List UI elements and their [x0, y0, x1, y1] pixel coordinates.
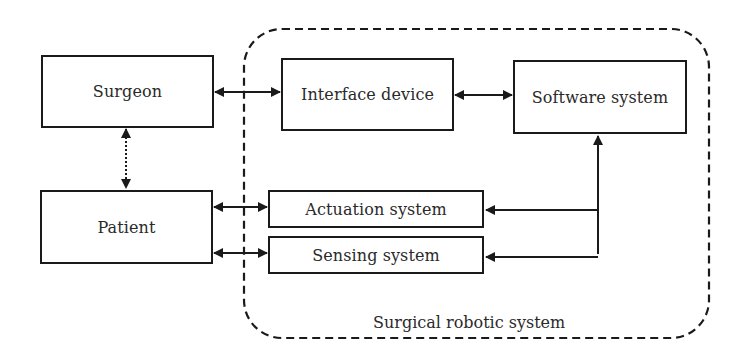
node-patient: Patient: [40, 190, 213, 264]
node-sensing-system: Sensing system: [268, 236, 484, 274]
node-sensing-system-label: Sensing system: [312, 246, 440, 265]
node-actuation-system: Actuation system: [268, 190, 484, 228]
node-patient-label: Patient: [97, 218, 155, 237]
node-software-system: Software system: [513, 60, 687, 134]
group-label: Surgical robotic system: [373, 313, 565, 332]
surgical-robot-diagram: Surgeon Interface device Software system…: [0, 0, 751, 357]
node-interface-device: Interface device: [281, 58, 454, 131]
node-software-system-label: Software system: [532, 88, 668, 107]
node-surgeon: Surgeon: [41, 55, 214, 128]
node-surgeon-label: Surgeon: [93, 82, 162, 101]
connectors-layer: [0, 0, 751, 357]
node-interface-device-label: Interface device: [301, 85, 434, 104]
node-actuation-system-label: Actuation system: [305, 200, 447, 219]
